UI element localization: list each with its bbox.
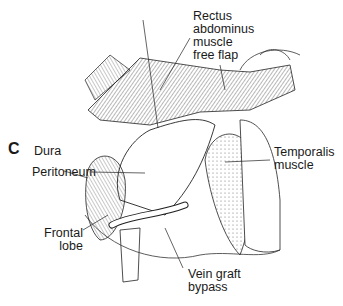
peritoneum-shape bbox=[117, 120, 215, 215]
label-temporalis: Temporalis muscle bbox=[274, 146, 334, 172]
temporalis-shape bbox=[240, 120, 280, 252]
label-frontal-lobe: Frontal lobe bbox=[44, 227, 83, 253]
retractor-shape bbox=[120, 228, 140, 282]
panel-label: C bbox=[8, 140, 20, 158]
label-vein-graft: Vein graft bypass bbox=[188, 268, 241, 294]
label-dura: Dura bbox=[34, 145, 61, 158]
label-peritoneum: Peritoneum bbox=[32, 166, 96, 179]
surgical-illustration: C Rectus abdominus muscle free flap Temp… bbox=[0, 0, 343, 306]
label-rectus: Rectus abdominus muscle free flap bbox=[193, 10, 254, 62]
